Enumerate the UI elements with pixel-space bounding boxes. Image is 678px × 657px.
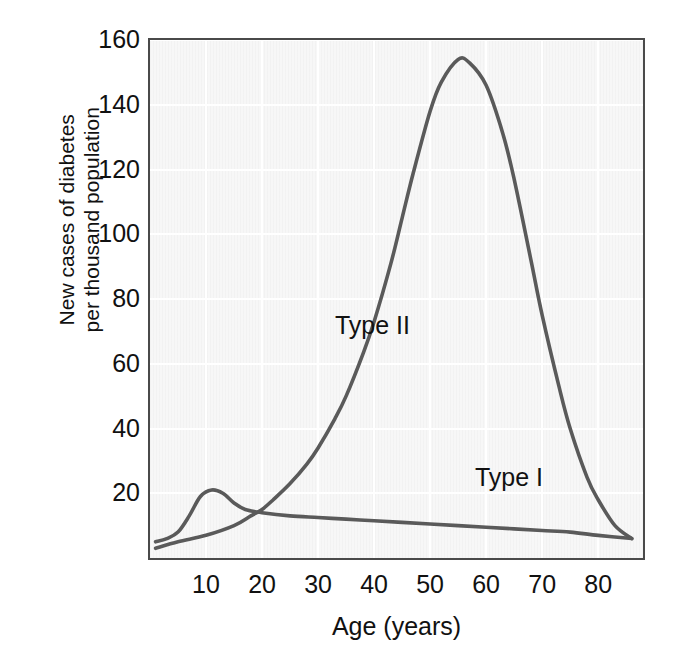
series-line-type-i (156, 490, 632, 542)
y-axis-title: New cases of diabetes per thousand popul… (55, 30, 105, 410)
series-line-type-ii (156, 58, 632, 548)
x-axis-tick-label: 30 (288, 572, 348, 597)
y-axis-tick-label: 20 (80, 480, 140, 505)
x-axis-tick-label: 60 (456, 572, 516, 597)
y-axis-title-line-1: New cases of diabetes (55, 30, 80, 410)
series-label-type-ii: Type II (335, 311, 410, 340)
x-axis-title: Age (years) (148, 612, 645, 641)
plot-area: Type II Type I (148, 38, 645, 560)
y-axis-title-line-2: per thousand population (80, 30, 105, 410)
x-axis-tick-labels: 1020304050607080 (148, 572, 645, 604)
figure-canvas: 20406080100120140160 New cases of diabet… (0, 0, 678, 657)
series-curves (150, 40, 643, 558)
x-axis-tick-label: 80 (568, 572, 628, 597)
x-axis-tick-label: 40 (344, 572, 404, 597)
series-label-type-i: Type I (475, 463, 543, 492)
x-axis-tick-label: 20 (232, 572, 292, 597)
y-axis-tick-label: 40 (80, 416, 140, 441)
x-axis-tick-label: 10 (176, 572, 236, 597)
x-axis-tick-label: 50 (400, 572, 460, 597)
x-axis-tick-label: 70 (512, 572, 572, 597)
